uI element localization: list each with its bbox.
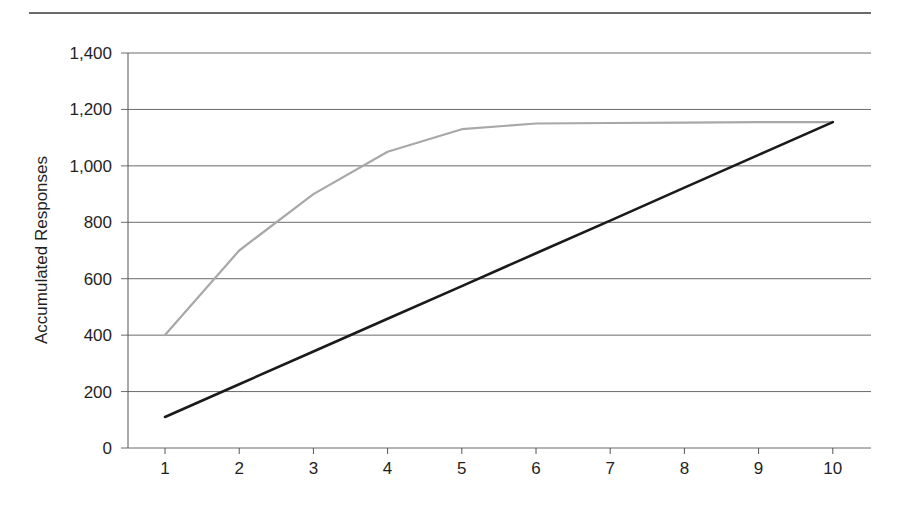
y-tick-label: 200 bbox=[84, 383, 112, 402]
line-chart: 02004006008001,0001,2001,400 12345678910… bbox=[0, 0, 902, 516]
y-tick-label: 0 bbox=[103, 439, 112, 458]
x-tick-label: 1 bbox=[160, 459, 169, 478]
x-tick-label: 10 bbox=[823, 459, 842, 478]
y-tick-label: 1,000 bbox=[69, 157, 112, 176]
x-axis: 12345678910 bbox=[160, 448, 842, 478]
x-tick-label: 6 bbox=[531, 459, 540, 478]
gray-series-line bbox=[165, 122, 833, 335]
y-axis-title: Accumulated Responses bbox=[32, 156, 51, 344]
x-tick-label: 5 bbox=[457, 459, 466, 478]
x-tick-label: 3 bbox=[309, 459, 318, 478]
gridlines bbox=[121, 53, 871, 448]
x-tick-label: 4 bbox=[383, 459, 392, 478]
y-axis-tick-labels: 02004006008001,0001,2001,400 bbox=[69, 44, 112, 458]
x-tick-label: 7 bbox=[605, 459, 614, 478]
x-tick-label: 2 bbox=[234, 459, 243, 478]
y-tick-label: 800 bbox=[84, 213, 112, 232]
x-tick-label: 8 bbox=[680, 459, 689, 478]
y-tick-label: 1,400 bbox=[69, 44, 112, 63]
y-tick-label: 1,200 bbox=[69, 100, 112, 119]
y-tick-label: 400 bbox=[84, 326, 112, 345]
y-tick-label: 600 bbox=[84, 270, 112, 289]
x-tick-label: 9 bbox=[754, 459, 763, 478]
